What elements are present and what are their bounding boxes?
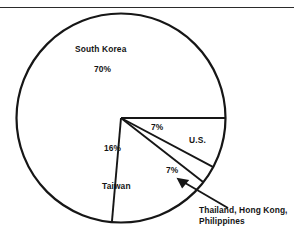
slice-label-south-korea: South Korea bbox=[75, 44, 126, 55]
slice-label-taiwan: Taiwan bbox=[102, 181, 131, 192]
slice-value-us: 7% bbox=[151, 122, 163, 133]
callout-line-2: Philippines bbox=[199, 216, 288, 227]
pie-chart-figure: South Korea 70% 7% U.S. 16% Taiwan 7% Th… bbox=[0, 0, 294, 236]
slice-value-taiwan: 16% bbox=[104, 143, 121, 154]
slice-label-us: U.S. bbox=[189, 135, 206, 146]
slice-value-south-korea: 70% bbox=[94, 64, 111, 75]
pie-chart-graphic bbox=[0, 0, 294, 236]
callout-line-1: Thailand, Hong Kong, bbox=[199, 205, 288, 216]
slice-value-other: 7% bbox=[166, 165, 178, 176]
slice-label-other-callout: Thailand, Hong Kong, Philippines bbox=[199, 205, 288, 227]
